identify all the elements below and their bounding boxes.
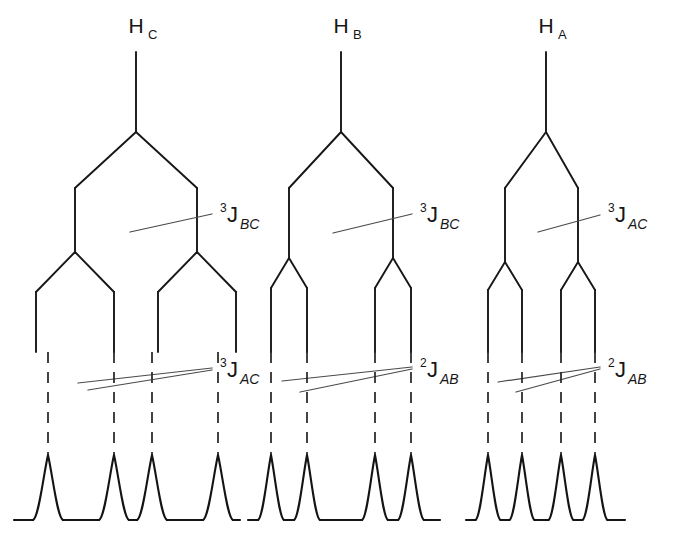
coupling-superscript: 2 bbox=[420, 356, 427, 370]
coupling-subscript: AB bbox=[627, 371, 647, 387]
coupling-superscript: 3 bbox=[608, 201, 615, 215]
tree-hc-spectrum bbox=[14, 455, 240, 520]
spectrum-peak bbox=[203, 455, 233, 520]
coupling-letter: J bbox=[427, 357, 438, 382]
spectrum-peak bbox=[137, 455, 167, 520]
spectrum-peak bbox=[398, 455, 424, 520]
tree-hc-header-label: HC bbox=[128, 14, 157, 42]
tree-hb: HB3JBC2JAB bbox=[248, 14, 460, 520]
header-subscript-text: C bbox=[148, 27, 157, 42]
split2-leader-line bbox=[282, 367, 412, 381]
split1-fork bbox=[289, 132, 393, 188]
coupling-subscript: AC bbox=[239, 371, 260, 387]
tree-ha: HA3JAC2JAB bbox=[466, 14, 648, 520]
tree-hc-split1-label: 3JBC bbox=[220, 201, 260, 232]
coupling-letter: J bbox=[615, 357, 626, 382]
coupling-superscript: 2 bbox=[608, 356, 615, 370]
tree-hb-spectrum bbox=[248, 455, 440, 520]
spectrum-peak bbox=[476, 455, 501, 520]
split2-fork bbox=[158, 252, 236, 292]
spectrum-peak bbox=[99, 455, 129, 520]
tree-hb-header-label: HB bbox=[333, 14, 361, 42]
header-subscript-text: A bbox=[558, 27, 567, 42]
tree-hb-split2-label: 2JAB bbox=[420, 356, 459, 387]
split1-fork bbox=[505, 132, 578, 188]
split2-fork bbox=[488, 262, 522, 290]
coupling-superscript: 3 bbox=[220, 201, 227, 215]
split2-leader-line bbox=[498, 367, 600, 382]
tree-ha-split2-label: 2JAB bbox=[608, 356, 647, 387]
tree-hc-split-1: 3JBC bbox=[75, 132, 260, 252]
tree-ha-spectrum bbox=[466, 455, 625, 520]
split2-fork bbox=[375, 258, 411, 288]
spectrum-peak bbox=[549, 455, 574, 520]
coupling-letter: J bbox=[227, 202, 238, 227]
split2-leader-line bbox=[516, 369, 600, 392]
tree-hc-split2-label: 3JAC bbox=[220, 356, 260, 387]
coupling-letter: J bbox=[427, 202, 438, 227]
tree-hc: HC3JBC3JAC bbox=[14, 14, 260, 520]
header-subscript-text: B bbox=[353, 27, 362, 42]
coupling-letter: J bbox=[615, 202, 626, 227]
spectrum-peak bbox=[583, 455, 608, 520]
tree-hb-dashed-connectors bbox=[271, 352, 411, 455]
diagram-canvas: HC3JBC3JACHB3JBC2JABHA3JAC2JAB bbox=[0, 0, 677, 554]
tree-ha-split-1: 3JAC bbox=[505, 132, 648, 262]
header-element-text: H bbox=[128, 14, 143, 37]
tree-hc-dashed-connectors bbox=[48, 352, 218, 455]
coupling-subscript: BC bbox=[240, 216, 260, 232]
spectrum-peak bbox=[258, 455, 284, 520]
coupling-letter: J bbox=[227, 357, 238, 382]
coupling-subscript: BC bbox=[440, 216, 460, 232]
split1-leader-line bbox=[130, 214, 212, 232]
tree-ha-split1-label: 3JAC bbox=[608, 201, 648, 232]
spectrum-peak bbox=[294, 455, 320, 520]
split2-fork bbox=[271, 258, 307, 288]
tree-hb-split-2: 2JAB bbox=[271, 258, 459, 392]
header-element-text: H bbox=[333, 14, 348, 37]
coupling-subscript: AB bbox=[439, 371, 459, 387]
split2-fork bbox=[561, 262, 595, 290]
tree-hc-split-2: 3JAC bbox=[36, 252, 260, 390]
spectrum-peak bbox=[33, 455, 63, 520]
coupling-superscript: 3 bbox=[420, 201, 427, 215]
nmr-splitting-diagram: HC3JBC3JACHB3JBC2JABHA3JAC2JAB bbox=[0, 0, 677, 554]
tree-ha-split-2: 2JAB bbox=[488, 262, 647, 392]
split1-fork bbox=[75, 132, 197, 188]
tree-hb-split1-label: 3JBC bbox=[420, 201, 460, 232]
header-element-text: H bbox=[538, 14, 553, 37]
coupling-subscript: AC bbox=[627, 216, 648, 232]
spectrum-peak bbox=[362, 455, 388, 520]
coupling-superscript: 3 bbox=[220, 356, 227, 370]
tree-ha-header-label: HA bbox=[538, 14, 567, 42]
spectrum-peak bbox=[510, 455, 535, 520]
split1-leader-line bbox=[333, 214, 412, 233]
tree-hb-split-1: 3JBC bbox=[289, 132, 460, 258]
split1-leader-line bbox=[538, 215, 600, 232]
tree-ha-dashed-connectors bbox=[488, 352, 595, 455]
split2-fork bbox=[36, 252, 114, 292]
